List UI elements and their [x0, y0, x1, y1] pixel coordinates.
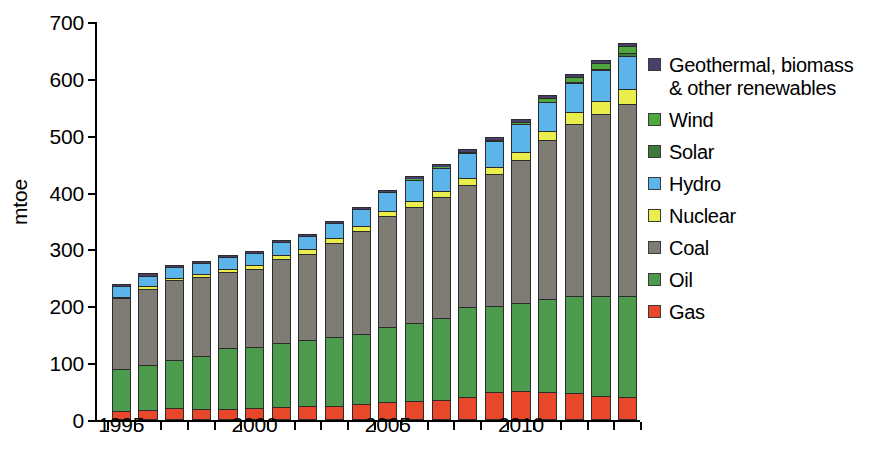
- bar-segment-hydro[interactable]: [618, 56, 637, 89]
- bar-segment-coal[interactable]: [565, 124, 584, 296]
- bar-stack[interactable]: [485, 22, 504, 420]
- bar-segment-coal[interactable]: [325, 243, 344, 337]
- bar-segment-oil[interactable]: [538, 299, 557, 391]
- bar-segment-nuclear[interactable]: [485, 167, 504, 174]
- bar-segment-oil[interactable]: [245, 347, 264, 408]
- bar-segment-nuclear[interactable]: [298, 249, 317, 254]
- bar-segment-oil[interactable]: [511, 303, 530, 391]
- bar-segment-oil[interactable]: [218, 348, 237, 408]
- bar-segment-oil[interactable]: [432, 318, 451, 400]
- bar-segment-oil[interactable]: [138, 365, 157, 410]
- bar-stack[interactable]: [325, 22, 344, 420]
- bar-stack[interactable]: [245, 22, 264, 420]
- bar-segment-coal[interactable]: [405, 207, 424, 324]
- bar-segment-oil[interactable]: [565, 296, 584, 393]
- bar-segment-hydro[interactable]: [511, 124, 530, 151]
- bar-segment-coal[interactable]: [432, 197, 451, 318]
- bar-segment-hydro[interactable]: [325, 223, 344, 237]
- bar-stack[interactable]: [112, 22, 131, 420]
- bar-segment-coal[interactable]: [245, 269, 264, 347]
- bar-segment-gas[interactable]: [565, 393, 584, 420]
- bar-segment-coal[interactable]: [138, 289, 157, 365]
- bar-segment-coal[interactable]: [485, 174, 504, 306]
- bar-segment-nuclear[interactable]: [378, 211, 397, 217]
- bar-segment-nuclear[interactable]: [325, 238, 344, 243]
- bar-segment-gas[interactable]: [165, 408, 184, 420]
- bar-segment-oil[interactable]: [325, 337, 344, 406]
- bar-stack[interactable]: [538, 22, 557, 420]
- bar-segment-wind[interactable]: [538, 98, 557, 101]
- bar-segment-geothermal[interactable]: [458, 149, 477, 152]
- bar-segment-hydro[interactable]: [538, 102, 557, 130]
- legend-item-coal[interactable]: Coal: [648, 237, 876, 260]
- bar-stack[interactable]: [138, 22, 157, 420]
- bar-segment-gas[interactable]: [432, 400, 451, 420]
- bar-segment-oil[interactable]: [165, 360, 184, 408]
- bar-segment-geothermal[interactable]: [325, 221, 344, 223]
- bar-segment-geothermal[interactable]: [192, 261, 211, 263]
- bar-segment-coal[interactable]: [165, 280, 184, 360]
- bar-segment-geothermal[interactable]: [272, 240, 291, 242]
- bar-stack[interactable]: [192, 22, 211, 420]
- bar-segment-gas[interactable]: [325, 406, 344, 420]
- bar-segment-coal[interactable]: [591, 114, 610, 296]
- bar-segment-geothermal[interactable]: [165, 265, 184, 267]
- legend-item-wind[interactable]: Wind: [648, 109, 876, 132]
- bar-stack[interactable]: [165, 22, 184, 420]
- bar-segment-hydro[interactable]: [458, 153, 477, 178]
- bar-segment-hydro[interactable]: [112, 286, 131, 296]
- bar-segment-geothermal[interactable]: [618, 43, 637, 46]
- bar-segment-geothermal[interactable]: [432, 164, 451, 167]
- bar-segment-geothermal[interactable]: [112, 284, 131, 286]
- bar-segment-hydro[interactable]: [218, 257, 237, 268]
- bar-segment-oil[interactable]: [458, 307, 477, 396]
- legend-item-solar[interactable]: Solar: [648, 141, 876, 164]
- bar-segment-coal[interactable]: [352, 231, 371, 333]
- bar-segment-oil[interactable]: [405, 323, 424, 401]
- bar-segment-coal[interactable]: [298, 254, 317, 340]
- legend-item-gas[interactable]: Gas: [648, 301, 876, 324]
- bar-segment-nuclear[interactable]: [245, 265, 264, 269]
- bar-segment-hydro[interactable]: [565, 83, 584, 113]
- bar-segment-geothermal[interactable]: [298, 234, 317, 236]
- bar-segment-oil[interactable]: [485, 306, 504, 392]
- bar-segment-geothermal[interactable]: [352, 207, 371, 209]
- bar-segment-nuclear[interactable]: [565, 112, 584, 124]
- bar-segment-nuclear[interactable]: [165, 278, 184, 280]
- bar-segment-coal[interactable]: [378, 216, 397, 327]
- bar-stack[interactable]: [511, 22, 530, 420]
- bar-segment-nuclear[interactable]: [511, 152, 530, 160]
- bar-stack[interactable]: [432, 22, 451, 420]
- bar-segment-wind[interactable]: [485, 140, 504, 142]
- bar-segment-coal[interactable]: [618, 104, 637, 296]
- bar-segment-nuclear[interactable]: [192, 274, 211, 277]
- bar-stack[interactable]: [618, 22, 637, 420]
- bar-segment-oil[interactable]: [112, 369, 131, 411]
- bar-segment-hydro[interactable]: [352, 209, 371, 226]
- bar-segment-oil[interactable]: [298, 340, 317, 406]
- bar-segment-hydro[interactable]: [378, 192, 397, 211]
- bar-stack[interactable]: [378, 22, 397, 420]
- bar-segment-geothermal[interactable]: [485, 137, 504, 140]
- bar-stack[interactable]: [405, 22, 424, 420]
- bar-stack[interactable]: [218, 22, 237, 420]
- bar-segment-oil[interactable]: [192, 356, 211, 409]
- bar-segment-geothermal[interactable]: [378, 190, 397, 192]
- bar-stack[interactable]: [591, 22, 610, 420]
- bar-segment-coal[interactable]: [511, 160, 530, 303]
- bar-segment-oil[interactable]: [591, 296, 610, 396]
- bar-segment-nuclear[interactable]: [618, 89, 637, 104]
- bar-segment-hydro[interactable]: [485, 141, 504, 167]
- bar-segment-nuclear[interactable]: [112, 297, 131, 299]
- bar-segment-gas[interactable]: [298, 406, 317, 420]
- bar-segment-hydro[interactable]: [272, 242, 291, 255]
- bar-segment-hydro[interactable]: [591, 70, 610, 101]
- bar-segment-gas[interactable]: [192, 409, 211, 420]
- bar-segment-geothermal[interactable]: [405, 176, 424, 179]
- bar-segment-wind[interactable]: [618, 46, 637, 53]
- bar-segment-oil[interactable]: [618, 296, 637, 397]
- bar-segment-gas[interactable]: [591, 396, 610, 420]
- bar-segment-geothermal[interactable]: [245, 251, 264, 253]
- bar-segment-gas[interactable]: [458, 397, 477, 420]
- bar-segment-coal[interactable]: [458, 185, 477, 308]
